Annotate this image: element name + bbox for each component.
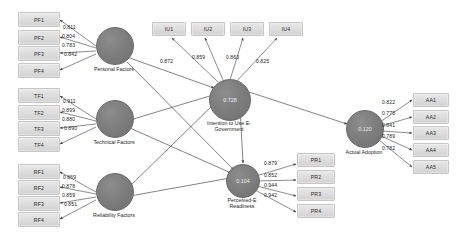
loading-aa1: 0.822 xyxy=(382,99,395,105)
indicator-pf1-label: PF1 xyxy=(34,17,44,23)
indicator-tf1[interactable]: TF1 xyxy=(18,88,60,103)
loading-tf1: 0.911 xyxy=(63,98,76,104)
indicator-aa3[interactable]: AA3 xyxy=(413,126,449,140)
indicator-tf4[interactable]: TF4 xyxy=(18,137,60,152)
indicator-tf2-label: TF2 xyxy=(34,110,44,116)
loading-tf2: 0.899 xyxy=(62,107,75,113)
indicator-aa4[interactable]: AA4 xyxy=(413,143,449,157)
indicator-iu2-label: IU2 xyxy=(204,26,213,32)
indicator-tf1-label: TF1 xyxy=(34,93,44,99)
loading-rf1: 0.869 xyxy=(63,174,76,180)
loading-aa2: 0.775 xyxy=(382,110,395,116)
construct-technical-factors-label: Technical Factors xyxy=(76,139,152,145)
construct-technical-factors[interactable] xyxy=(96,100,134,138)
indicator-tf2[interactable]: TF2 xyxy=(18,105,60,120)
indicator-tf3-label: TF3 xyxy=(34,126,44,132)
indicator-pr3-label: PR3 xyxy=(311,191,322,197)
indicator-pr4[interactable]: PR4 xyxy=(297,204,335,218)
indicator-iu3-label: IU3 xyxy=(243,26,252,32)
indicator-aa1-label: AA1 xyxy=(426,97,436,103)
indicator-iu1-label: IU1 xyxy=(165,26,174,32)
loading-iu2: 0.859 xyxy=(192,54,205,60)
indicator-rf3[interactable]: RF3 xyxy=(18,196,60,211)
loading-pf1: 0.811 xyxy=(63,24,76,30)
indicator-pr4-label: PR4 xyxy=(311,208,322,214)
indicator-rf2-label: RF2 xyxy=(34,185,44,191)
indicator-pf3[interactable]: PF3 xyxy=(18,46,60,61)
loading-pf2: 0.804 xyxy=(62,33,75,39)
loading-tf4: 0.890 xyxy=(64,125,77,131)
loading-pr1: 0.879 xyxy=(264,160,277,166)
loading-aa4: 0.789 xyxy=(382,133,395,139)
path-rf-to-readiness xyxy=(130,178,230,196)
indicator-rf4-label: RF4 xyxy=(34,217,44,223)
loading-aa3: 0.841 xyxy=(382,122,395,128)
loading-pf4: 0.842 xyxy=(64,51,77,57)
indicator-aa2[interactable]: AA2 xyxy=(413,110,449,124)
loading-rf3: 0.859 xyxy=(62,192,75,198)
construct-perceived-e-readiness[interactable]: 0.104 xyxy=(226,164,260,198)
indicator-pr1-label: PR1 xyxy=(311,157,322,163)
indicator-rf2[interactable]: RF2 xyxy=(18,180,60,195)
construct-intention-to-use[interactable]: 0.728 xyxy=(209,79,251,121)
indicator-aa3-label: AA3 xyxy=(426,130,436,136)
sem-path-diagram: PF1 PF2 PF3 PF4 TF1 TF2 TF3 TF4 RF1 RF2 … xyxy=(0,0,457,241)
path-tf-to-readiness xyxy=(130,128,231,173)
indicator-pf1[interactable]: PF1 xyxy=(18,12,60,27)
loading-iu3: 0.863 xyxy=(226,54,239,60)
loading-iu1: 0.872 xyxy=(160,58,173,64)
indicator-rf1[interactable]: RF1 xyxy=(18,164,60,179)
indicator-iu4[interactable]: IU4 xyxy=(269,22,303,36)
loading-pr4: 0.942 xyxy=(264,192,277,198)
indicator-pf4[interactable]: PF4 xyxy=(18,63,60,78)
indicator-aa5[interactable]: AA5 xyxy=(413,160,449,174)
indicator-pf4-label: PF4 xyxy=(34,68,44,74)
loading-rf2: 0.878 xyxy=(62,183,75,189)
construct-reliability-factors[interactable] xyxy=(96,173,134,211)
indicator-rf1-label: RF1 xyxy=(34,169,44,175)
path-tf-to-intention xyxy=(130,95,213,120)
indicator-aa4-label: AA4 xyxy=(426,147,436,153)
loading-pr2: 0.852 xyxy=(264,172,277,178)
indicator-pr3[interactable]: PR3 xyxy=(297,187,335,201)
indicator-rf3-label: RF3 xyxy=(34,201,44,207)
construct-personal-factors[interactable] xyxy=(96,27,134,65)
indicator-aa2-label: AA2 xyxy=(426,114,436,120)
loading-pr3: 0.944 xyxy=(264,182,277,188)
construct-readiness-label: Perceived-E Readiness xyxy=(207,197,277,210)
loading-tf3: 0.880 xyxy=(62,116,75,122)
indicator-iu3[interactable]: IU3 xyxy=(230,22,264,36)
construct-readiness-r2: 0.104 xyxy=(236,178,250,184)
indicator-pf3-label: PF3 xyxy=(34,51,44,57)
construct-personal-factors-label: Personal Factors xyxy=(76,66,152,72)
loading-aa5: 0.782 xyxy=(382,145,395,151)
indicator-pr2[interactable]: PR2 xyxy=(297,170,335,184)
loading-iu4: 0.825 xyxy=(256,58,269,64)
construct-intention-r2: 0.728 xyxy=(223,97,237,103)
indicator-pf2-label: PF2 xyxy=(34,35,44,41)
indicator-tf4-label: TF4 xyxy=(34,142,44,148)
indicator-iu2[interactable]: IU2 xyxy=(191,22,225,36)
indicator-aa5-label: AA5 xyxy=(426,164,436,170)
indicator-pf2[interactable]: PF2 xyxy=(18,30,60,45)
indicator-pr2-label: PR2 xyxy=(311,174,322,180)
construct-reliability-factors-label: Reliability Factors xyxy=(74,212,154,218)
loading-rf4: 0.851 xyxy=(64,201,77,207)
loading-pf3: 0.783 xyxy=(62,42,75,48)
construct-adoption-r2: 0.120 xyxy=(358,126,372,132)
indicator-aa1[interactable]: AA1 xyxy=(413,93,449,107)
indicator-iu4-label: IU4 xyxy=(282,26,291,32)
indicator-tf3[interactable]: TF3 xyxy=(18,121,60,136)
construct-actual-adoption[interactable]: 0.120 xyxy=(346,110,384,148)
construct-intention-label: Intention to Use E- Government xyxy=(186,120,272,133)
indicator-iu1[interactable]: IU1 xyxy=(152,22,186,36)
indicator-rf4[interactable]: RF4 xyxy=(18,212,60,227)
